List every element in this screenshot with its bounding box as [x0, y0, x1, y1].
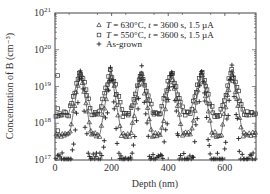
- y-tick-label: 1020: [34, 43, 52, 55]
- legend: T = 630°C, t = 3600 s, 1.5 µAT = 550°C, …: [97, 20, 215, 49]
- y-tick-labels: 10171018101910201021: [34, 6, 52, 165]
- boron-depth-profile-chart: 10171018101910201021 0200400600 Depth (n…: [0, 0, 270, 194]
- y-axis-label: Concentration of B (cm⁻³): [4, 33, 16, 139]
- x-tick-label: 400: [161, 162, 176, 173]
- x-axis-label: Depth (nm): [132, 178, 178, 190]
- legend-label: As-grown: [106, 39, 142, 49]
- legend-label: T = 630°C, t = 3600 s, 1.5 µA: [106, 20, 214, 30]
- y-tick-label: 1021: [34, 6, 52, 18]
- plot-data: [54, 63, 258, 162]
- legend-item-plus: As-grown: [97, 39, 143, 49]
- y-tick-label: 1018: [34, 116, 52, 128]
- legend-item-triangle: T = 630°C, t = 3600 s, 1.5 µA: [97, 20, 214, 30]
- x-tick-label: 200: [104, 162, 119, 173]
- y-tick-label: 1017: [34, 153, 52, 165]
- x-tick-labels: 0200400600: [53, 162, 233, 173]
- y-tick-label: 1019: [34, 80, 52, 92]
- x-tick-label: 600: [217, 162, 232, 173]
- x-tick-label: 0: [53, 162, 58, 173]
- surface-outliers: [56, 74, 60, 133]
